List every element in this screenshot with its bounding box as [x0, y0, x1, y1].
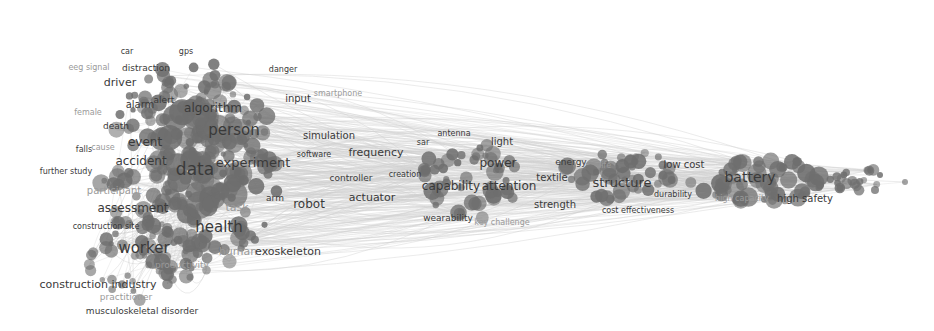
network-node[interactable]: [840, 172, 847, 179]
network-node[interactable]: [575, 177, 590, 192]
keyword-label[interactable]: participant: [87, 186, 141, 196]
keyword-label[interactable]: death: [103, 122, 129, 131]
keyword-label[interactable]: strength: [534, 200, 576, 210]
network-node[interactable]: [446, 148, 458, 160]
network-node[interactable]: [617, 153, 626, 162]
network-node[interactable]: [187, 274, 194, 281]
network-node[interactable]: [202, 196, 219, 213]
keyword-network-map[interactable]: cargpseeg signaldistractiondangerdriveri…: [0, 0, 934, 331]
keyword-label[interactable]: durability: [654, 191, 692, 199]
keyword-label[interactable]: alarm: [126, 100, 155, 110]
keyword-label[interactable]: assessment: [97, 202, 168, 214]
network-node[interactable]: [776, 162, 785, 171]
keyword-label[interactable]: smartphone: [314, 90, 362, 98]
keyword-label[interactable]: high capacity: [715, 195, 769, 203]
network-node[interactable]: [84, 259, 95, 270]
keyword-label[interactable]: controller: [330, 174, 373, 183]
keyword-label[interactable]: power: [479, 157, 516, 169]
network-node[interactable]: [177, 235, 189, 247]
keyword-label[interactable]: cause: [91, 144, 114, 152]
network-node[interactable]: [864, 167, 871, 174]
keyword-label[interactable]: car: [121, 48, 134, 56]
network-node[interactable]: [685, 177, 696, 188]
keyword-label[interactable]: experiment: [216, 156, 291, 169]
network-node[interactable]: [145, 261, 152, 268]
keyword-label[interactable]: construction industry: [40, 279, 157, 290]
keyword-label[interactable]: sar: [417, 139, 429, 147]
keyword-label[interactable]: driver: [104, 77, 136, 88]
keyword-label[interactable]: task: [225, 202, 248, 213]
keyword-label[interactable]: distraction: [122, 64, 170, 73]
keyword-label[interactable]: danger: [269, 66, 297, 74]
keyword-label[interactable]: life: [599, 162, 611, 170]
keyword-label[interactable]: gps: [179, 48, 193, 56]
keyword-label[interactable]: attention: [482, 180, 537, 192]
network-node[interactable]: [162, 279, 173, 290]
network-node[interactable]: [430, 165, 440, 175]
keyword-label[interactable]: structure: [593, 176, 652, 189]
keyword-label[interactable]: event: [128, 136, 162, 148]
network-node[interactable]: [105, 244, 118, 257]
keyword-label[interactable]: data: [176, 161, 214, 178]
network-node[interactable]: [598, 150, 607, 159]
keyword-label[interactable]: musculoskeletal disorder: [86, 307, 198, 316]
keyword-label[interactable]: software: [297, 151, 331, 159]
network-node[interactable]: [695, 183, 711, 199]
keyword-label[interactable]: arm: [266, 194, 284, 203]
keyword-label[interactable]: energy: [555, 158, 586, 167]
network-node[interactable]: [144, 75, 153, 84]
keyword-label[interactable]: light: [491, 137, 513, 147]
network-node[interactable]: [807, 174, 824, 191]
network-node[interactable]: [208, 58, 219, 69]
network-node[interactable]: [612, 189, 626, 203]
network-node[interactable]: [159, 221, 165, 227]
network-node[interactable]: [189, 63, 199, 73]
keyword-label[interactable]: cost effectiveness: [602, 207, 674, 215]
keyword-label[interactable]: battery: [724, 170, 775, 184]
network-node[interactable]: [655, 154, 662, 161]
keyword-label[interactable]: creation: [389, 171, 422, 179]
network-node[interactable]: [125, 169, 141, 185]
keyword-label[interactable]: low cost: [663, 160, 704, 170]
network-node[interactable]: [433, 202, 439, 208]
keyword-label[interactable]: further study: [40, 168, 92, 176]
network-node[interactable]: [244, 94, 250, 100]
network-node[interactable]: [210, 70, 221, 81]
network-node[interactable]: [261, 222, 267, 228]
network-node[interactable]: [784, 154, 800, 170]
network-node[interactable]: [662, 172, 678, 188]
keyword-label[interactable]: productivity: [155, 261, 209, 270]
network-node[interactable]: [861, 177, 867, 183]
keyword-label[interactable]: construction site: [73, 223, 140, 231]
network-node[interactable]: [877, 172, 883, 178]
keyword-label[interactable]: actuator: [349, 192, 395, 203]
network-node[interactable]: [837, 185, 844, 192]
keyword-label[interactable]: falls: [76, 146, 92, 154]
network-node[interactable]: [421, 151, 436, 166]
network-node[interactable]: [100, 232, 114, 246]
network-node[interactable]: [850, 179, 860, 189]
network-node[interactable]: [468, 197, 481, 210]
network-node[interactable]: [457, 151, 465, 159]
keyword-label[interactable]: worker: [118, 241, 169, 256]
network-node[interactable]: [166, 76, 174, 84]
network-node[interactable]: [112, 231, 119, 238]
keyword-label[interactable]: accident: [115, 155, 166, 167]
keyword-label[interactable]: frequency: [348, 147, 403, 158]
network-node[interactable]: [115, 110, 124, 119]
network-node[interactable]: [832, 172, 841, 181]
keyword-label[interactable]: antenna: [437, 130, 470, 138]
keyword-label[interactable]: simulation: [303, 131, 355, 141]
network-node[interactable]: [454, 159, 461, 166]
keyword-label[interactable]: key challenge: [474, 219, 529, 227]
network-node[interactable]: [177, 127, 199, 149]
keyword-label[interactable]: wearability: [423, 214, 473, 223]
keyword-label[interactable]: eeg signal: [68, 64, 109, 72]
keyword-label[interactable]: capability: [422, 180, 480, 192]
network-node[interactable]: [871, 186, 879, 194]
keyword-label[interactable]: algorithm: [184, 102, 242, 114]
network-node[interactable]: [780, 171, 797, 188]
network-node[interactable]: [86, 250, 97, 261]
keyword-label[interactable]: practitioner: [100, 293, 152, 302]
network-node[interactable]: [768, 196, 777, 205]
